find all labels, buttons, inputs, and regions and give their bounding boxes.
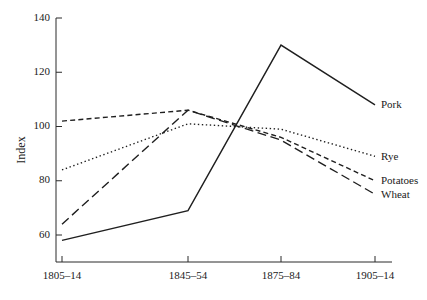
y-axis-tick-labels: 6080100120140 — [34, 11, 51, 240]
series-label-wheat: Wheat — [381, 188, 410, 200]
line-chart: 6080100120140 1805–141845–541875–841905–… — [0, 0, 427, 300]
y-tick-label: 140 — [34, 11, 51, 23]
y-axis-ticks — [56, 18, 62, 235]
y-tick-label: 100 — [34, 119, 51, 131]
x-tick-label: 1845–54 — [169, 269, 208, 281]
x-tick-label: 1805–14 — [43, 269, 82, 281]
series-label-rye: Rye — [381, 150, 398, 162]
series-line-wheat — [62, 110, 375, 224]
series-inline-labels: PorkRyePotatoesWheat — [381, 98, 418, 200]
y-tick-label: 60 — [39, 228, 51, 240]
y-tick-label: 80 — [39, 173, 51, 185]
y-tick-label: 120 — [34, 65, 51, 77]
series-line-rye — [62, 124, 375, 170]
series-label-pork: Pork — [381, 98, 402, 110]
x-tick-label: 1875–84 — [262, 269, 301, 281]
series-line-potatoes — [62, 110, 375, 181]
x-axis-ticks — [62, 256, 375, 262]
series-label-potatoes: Potatoes — [381, 174, 418, 186]
series-lines — [62, 45, 375, 240]
x-axis-tick-labels: 1805–141845–541875–841905–14 — [43, 269, 395, 281]
y-axis-title: Index — [14, 136, 28, 163]
chart-canvas: 6080100120140 1805–141845–541875–841905–… — [0, 0, 427, 300]
x-tick-label: 1905–14 — [356, 269, 395, 281]
